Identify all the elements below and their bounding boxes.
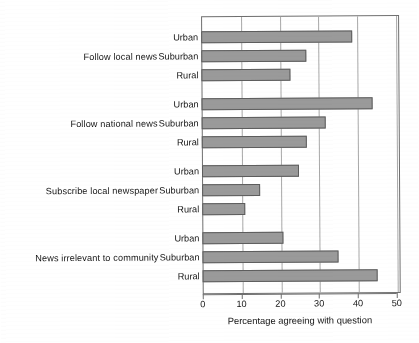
- x-axis-line: [203, 293, 397, 295]
- bar: [202, 117, 326, 130]
- bar: [203, 269, 378, 282]
- bar: [202, 232, 284, 244]
- category-label: Rural: [178, 271, 200, 281]
- bar: [201, 69, 290, 82]
- category-label: Urban: [173, 32, 198, 42]
- x-tick-label: 40: [353, 298, 363, 308]
- group-label: Follow local news: [84, 52, 158, 62]
- x-axis-ticks: 01020304050: [0, 0, 417, 2]
- category-label: Suburban: [158, 51, 198, 61]
- category-label: Urban: [174, 233, 199, 243]
- x-tick-label: 10: [236, 299, 246, 309]
- group-label: Follow national news: [70, 119, 157, 130]
- bar: [201, 50, 306, 63]
- bar: [202, 165, 299, 178]
- x-tick-label: 30: [314, 299, 324, 309]
- category-label: Rural: [177, 137, 199, 147]
- group-label: News irrelevant to community: [35, 253, 158, 264]
- bar-chart: UrbanSuburbanRuralFollow local newsUrban…: [0, 0, 419, 343]
- group-label: Subscribe local newspaper: [46, 186, 158, 197]
- category-label: Suburban: [159, 118, 199, 128]
- x-axis-title: Percentage agreeing with question: [203, 314, 397, 326]
- bar: [202, 203, 245, 215]
- gridline: [357, 16, 360, 292]
- labels-layer: UrbanSuburbanRuralFollow local newsUrban…: [0, 0, 417, 2]
- category-label: Rural: [176, 70, 198, 80]
- bar: [202, 250, 338, 263]
- category-label: Suburban: [160, 252, 200, 262]
- bar: [202, 136, 307, 149]
- x-tick-label: 50: [392, 298, 402, 308]
- bar: [202, 184, 260, 196]
- category-label: Urban: [174, 99, 199, 109]
- bar: [201, 30, 352, 43]
- category-label: Rural: [177, 204, 199, 214]
- category-label: Suburban: [159, 185, 199, 195]
- gridline: [396, 16, 399, 292]
- x-tick-label: 20: [275, 299, 285, 309]
- bar: [202, 97, 373, 110]
- bars-layer: [0, 0, 417, 2]
- x-tick-label: 0: [200, 299, 205, 309]
- category-label: Urban: [174, 166, 199, 176]
